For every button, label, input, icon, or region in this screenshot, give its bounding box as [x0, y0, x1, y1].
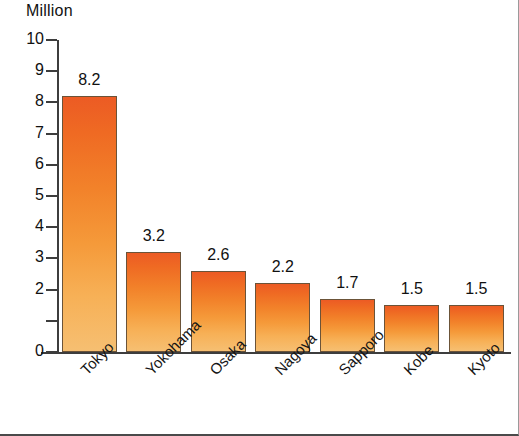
bar-value-label: 2.6 [191, 246, 246, 264]
y-axis-tick-mark [46, 70, 57, 72]
bar-value-label: 3.2 [126, 227, 181, 245]
y-axis-tick-mark [46, 133, 57, 135]
y-axis-tick-label: 10 [4, 30, 44, 48]
y-axis-tick-label: 3 [4, 248, 44, 266]
y-axis-tick-label: 2 [4, 280, 44, 298]
bar-value-label: 8.2 [62, 71, 117, 89]
bar [62, 96, 117, 352]
plot-area: 02345678910 8.23.22.62.21.71.51.5 TokyoY… [0, 0, 519, 436]
y-axis-tick-mark [46, 289, 57, 291]
bar-value-label: 1.5 [449, 280, 504, 298]
bar-value-label: 1.5 [384, 280, 439, 298]
y-axis-tick-label: 7 [4, 124, 44, 142]
y-axis-tick-mark [46, 226, 57, 228]
y-axis-tick-label: 6 [4, 155, 44, 173]
bar-value-label: 1.7 [320, 274, 375, 292]
y-axis-tick-label: 8 [4, 92, 44, 110]
y-axis-tick-label: 9 [4, 61, 44, 79]
y-axis-tick-mark [46, 320, 57, 322]
y-axis-tick-mark [46, 351, 57, 353]
y-axis-tick-mark [46, 164, 57, 166]
y-axis-tick-label: 4 [4, 217, 44, 235]
y-axis-tick-label: 5 [4, 186, 44, 204]
y-axis-tick-label: 0 [4, 342, 44, 360]
bar-chart: Million 02345678910 8.23.22.62.21.71.51.… [0, 0, 519, 436]
y-axis-line [57, 40, 59, 353]
y-axis-tick-mark [46, 195, 57, 197]
bar-value-label: 2.2 [255, 258, 310, 276]
y-axis-tick-mark [46, 101, 57, 103]
y-axis-tick-mark [46, 39, 57, 41]
bar [384, 305, 439, 352]
y-axis-tick-mark [46, 257, 57, 259]
